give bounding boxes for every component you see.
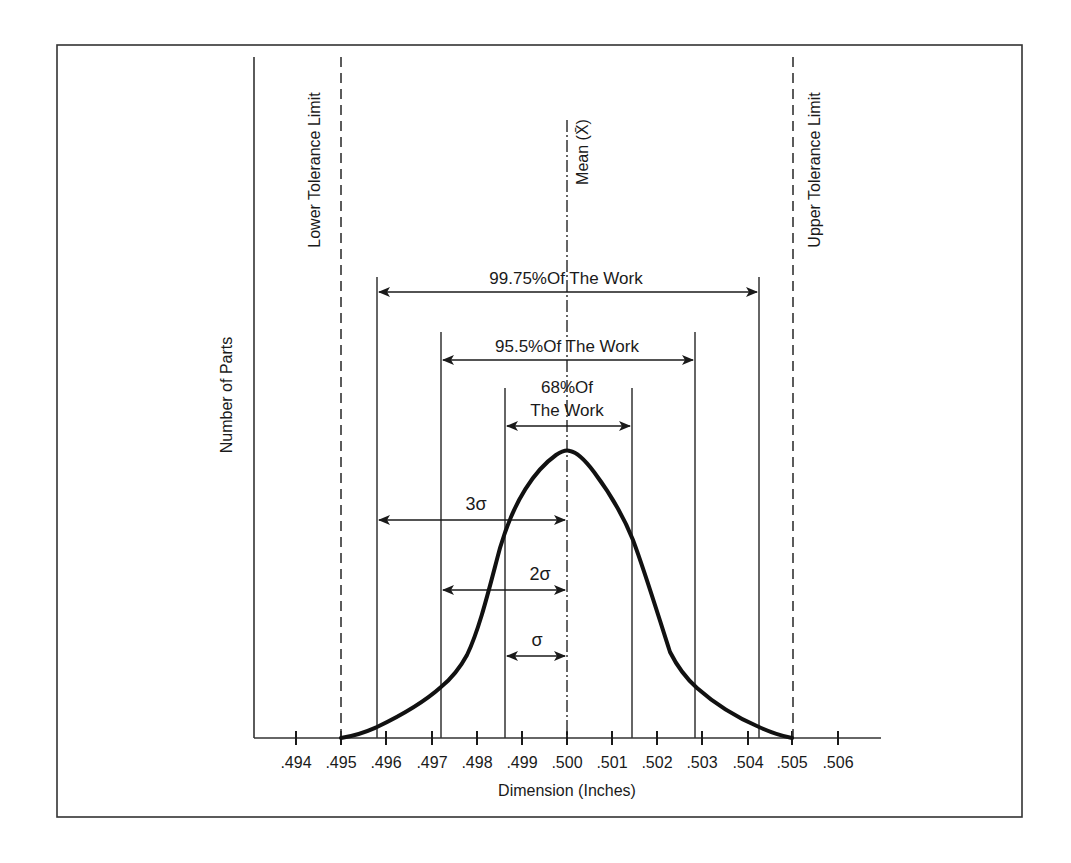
tick-label: .496 (370, 754, 401, 771)
y-axis-title: Number of Parts (218, 337, 235, 453)
tick-label: .499 (506, 754, 537, 771)
tick-label: .495 (325, 754, 356, 771)
x-axis-title: Dimension (Inches) (498, 782, 636, 799)
normal-distribution-diagram: .494 .495 .496 .497 .498 .499 .500 .501 … (0, 0, 1071, 863)
sigma-3-label: 3σ (465, 494, 486, 514)
band-1-label-line2: The Work (530, 401, 604, 420)
tick-label: .506 (822, 754, 853, 771)
band-1-label-line1: 68%Of (541, 378, 593, 397)
lower-tolerance-label: Lower Tolerance Limit (306, 92, 323, 248)
sigma-2-label: 2σ (529, 564, 550, 584)
tick-label: .502 (641, 754, 672, 771)
tick-label: .503 (686, 754, 717, 771)
tick-label: .501 (596, 754, 627, 771)
band-2-label: 95.5%Of The Work (495, 337, 639, 356)
band-3-label: 99.75%Of The Work (489, 269, 643, 288)
normal-distribution-curve (341, 451, 792, 738)
tick-label: .494 (280, 754, 311, 771)
sigma-1-label: σ (531, 630, 542, 650)
tick-label: .505 (776, 754, 807, 771)
tick-label: .498 (461, 754, 492, 771)
tick-label: .500 (551, 754, 582, 771)
x-axis-tick-labels: .494 .495 .496 .497 .498 .499 .500 .501 … (280, 754, 853, 771)
tick-label: .504 (732, 754, 763, 771)
mean-label: Mean (X̄) (574, 119, 591, 185)
tick-label: .497 (416, 754, 447, 771)
figure-frame (57, 45, 1022, 817)
upper-tolerance-label: Upper Tolerance Limit (806, 92, 823, 248)
